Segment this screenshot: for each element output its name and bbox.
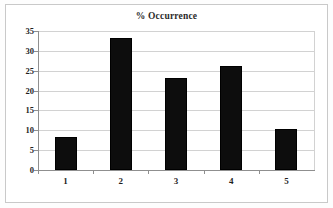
grid-line [38, 71, 314, 72]
y-axis-tick-label: 10 [4, 125, 34, 135]
x-axis-tick-label: 4 [211, 176, 251, 186]
x-axis-tick-label: 2 [101, 176, 141, 186]
y-axis-tick-label: 30 [4, 46, 34, 56]
x-axis-tick-mark [148, 170, 149, 174]
y-axis-tick-label: 0 [4, 165, 34, 175]
chart-title: % Occurrence [0, 11, 333, 21]
y-axis-tick-mark [34, 150, 38, 151]
y-axis-tick-label: 5 [4, 145, 34, 155]
y-axis-tick-label: 20 [4, 86, 34, 96]
plot-area [38, 31, 314, 170]
x-axis-tick-mark [93, 170, 94, 174]
y-axis-tick-mark [34, 110, 38, 111]
y-axis-tick-mark [34, 91, 38, 92]
y-axis-tick-label: 25 [4, 66, 34, 76]
x-axis-tick-label: 1 [46, 176, 86, 186]
plot-right-border [314, 31, 315, 171]
bar [110, 38, 132, 170]
y-axis-line [38, 31, 39, 171]
bar [55, 137, 77, 170]
bar [165, 78, 187, 170]
grid-line [38, 51, 314, 52]
grid-line [38, 31, 314, 32]
x-axis-tick-mark [259, 170, 260, 174]
x-axis-tick-mark [204, 170, 205, 174]
y-axis-tick-mark [34, 51, 38, 52]
chart-screenshot: % Occurrence 05101520253035 12345 [0, 0, 333, 208]
x-axis-tick-mark [38, 170, 39, 174]
y-axis-tick-label: 35 [4, 26, 34, 36]
bar [275, 129, 297, 170]
x-axis-tick-label: 3 [156, 176, 196, 186]
bar [220, 66, 242, 170]
y-axis-tick-mark [34, 71, 38, 72]
x-axis-tick-label: 5 [266, 176, 306, 186]
y-axis-tick-mark [34, 130, 38, 131]
y-axis-tick-mark [34, 31, 38, 32]
y-axis: 05101520253035 [0, 0, 34, 208]
x-axis-line [38, 170, 315, 171]
y-axis-tick-label: 15 [4, 105, 34, 115]
